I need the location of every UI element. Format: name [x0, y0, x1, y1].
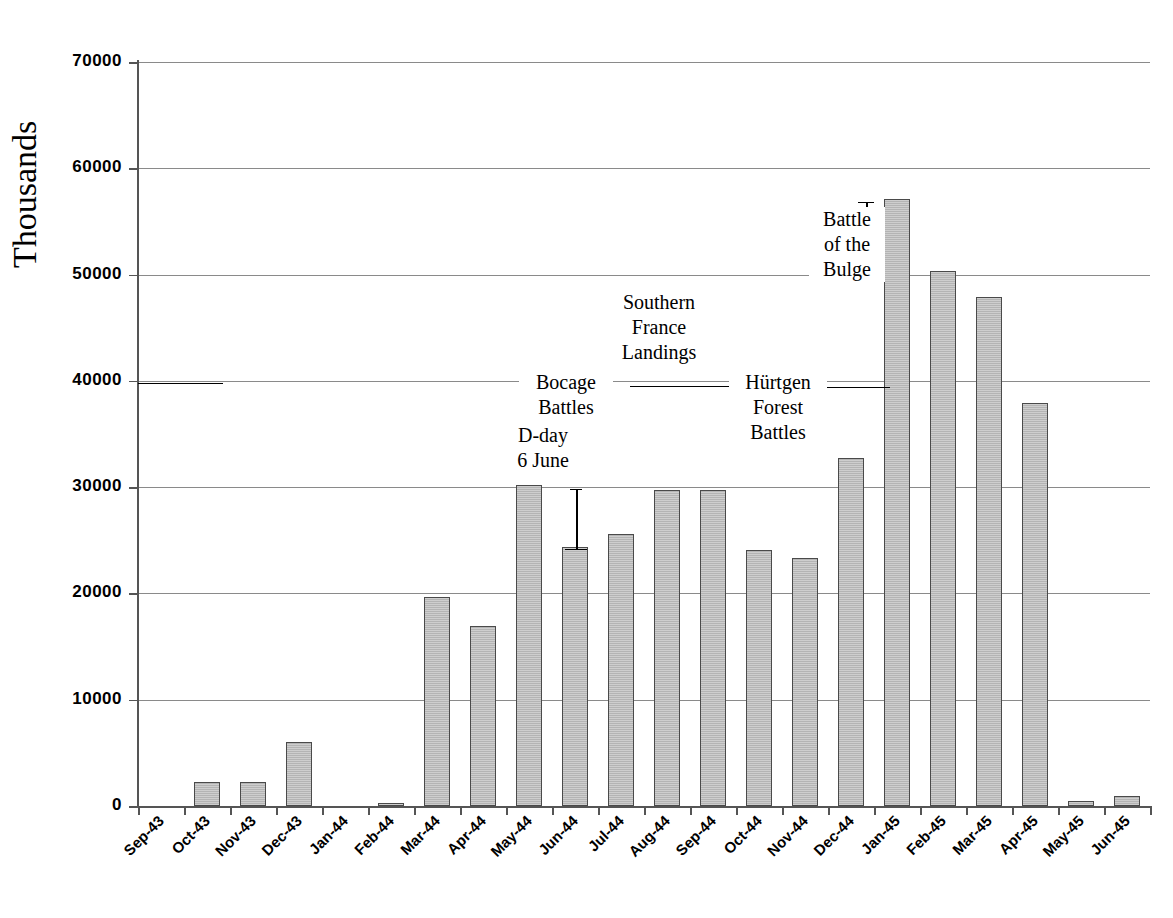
leader-line-hurtgen-right — [820, 387, 890, 388]
annotation-southern-france-landings: Southern France Landings — [597, 290, 721, 365]
bar[interactable] — [516, 485, 542, 806]
y-axis-tick-label: 50000 — [72, 264, 122, 284]
bar[interactable] — [424, 597, 450, 806]
x-axis-tick — [552, 806, 554, 815]
x-axis-tick — [920, 806, 922, 815]
gridline — [138, 62, 1150, 63]
bar[interactable] — [746, 550, 772, 806]
y-axis-tick — [129, 593, 138, 595]
y-axis-tick — [129, 168, 138, 170]
y-axis-tick-label: 10000 — [72, 689, 122, 709]
bar[interactable] — [470, 626, 496, 806]
x-axis-tick — [782, 806, 784, 815]
gridline — [138, 275, 1150, 276]
bar[interactable] — [608, 534, 634, 806]
bar[interactable] — [884, 199, 910, 806]
y-axis-tick — [129, 806, 138, 808]
annotation-battle-of-the-bulge: Battle of the Bulge — [809, 207, 885, 282]
leader-line-southern-france — [630, 386, 735, 387]
x-axis-tick — [230, 806, 232, 815]
annotation-hurtgen-forest-battles: Hürtgen Forest Battles — [729, 370, 827, 445]
y-axis-tick — [129, 700, 138, 702]
bar[interactable] — [700, 490, 726, 806]
x-axis-tick — [1012, 806, 1014, 815]
chart-figure: Thousands 010000200003000040000500006000… — [0, 0, 1173, 918]
x-axis-tick — [1104, 806, 1106, 815]
y-axis-tick-labels: 010000200003000040000500006000070000 — [0, 0, 122, 918]
bar[interactable] — [976, 297, 1002, 806]
y-axis-tick — [129, 487, 138, 489]
bar[interactable] — [838, 458, 864, 806]
bar[interactable] — [792, 558, 818, 806]
y-axis-tick-label: 30000 — [72, 476, 122, 496]
x-axis-tick — [598, 806, 600, 815]
x-axis-tick — [644, 806, 646, 815]
leader-line-d-day — [576, 489, 578, 550]
bar[interactable] — [930, 271, 956, 806]
x-axis-tick — [506, 806, 508, 815]
x-axis-tick — [138, 806, 140, 815]
leader-line-d-day-bottom — [565, 549, 587, 550]
y-axis-tick — [129, 62, 138, 64]
leader-line-bocage-left — [138, 383, 223, 384]
y-axis-tick-label: 20000 — [72, 582, 122, 602]
y-axis-tick — [129, 275, 138, 277]
y-axis-tick — [129, 381, 138, 383]
x-axis-tick — [828, 806, 830, 815]
gridline — [138, 168, 1150, 169]
x-axis-tick — [322, 806, 324, 815]
x-axis-tick — [874, 806, 876, 815]
leader-line-d-day-top — [570, 489, 582, 490]
y-axis-line — [137, 60, 139, 808]
x-axis-tick — [276, 806, 278, 815]
x-axis-tick — [460, 806, 462, 815]
x-axis-tick — [966, 806, 968, 815]
leader-line-bulge-top — [858, 202, 874, 203]
y-axis-tick-label: 0 — [112, 795, 122, 815]
annotation-d-day: D-day 6 June — [495, 423, 591, 473]
x-axis-tick — [368, 806, 370, 815]
x-axis-tick — [414, 806, 416, 815]
bar[interactable] — [562, 547, 588, 806]
x-axis-tick — [736, 806, 738, 815]
y-axis-tick-label: 70000 — [72, 51, 122, 71]
bar[interactable] — [654, 490, 680, 806]
bar[interactable] — [1022, 403, 1048, 806]
x-axis-tick — [184, 806, 186, 815]
x-axis-tick — [1150, 806, 1152, 815]
x-axis-tick — [1058, 806, 1060, 815]
x-axis-tick — [690, 806, 692, 815]
annotation-bocage-battles: Bocage Battles — [519, 370, 613, 420]
plot-area — [138, 62, 1150, 806]
y-axis-tick-label: 60000 — [72, 157, 122, 177]
y-axis-tick-label: 40000 — [72, 370, 122, 390]
